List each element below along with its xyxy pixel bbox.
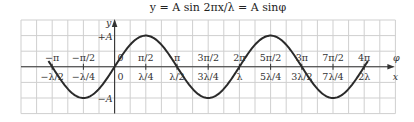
phase-tick-label: π/2 <box>138 52 154 63</box>
phase-tick-label: 2π <box>233 52 245 63</box>
x-axis-arrow-icon <box>387 64 394 70</box>
x-tick-label: λ/2 <box>169 71 184 82</box>
phase-tick-label: π <box>174 52 180 63</box>
x-tick-label: 3λ/4 <box>198 71 219 82</box>
x-tick-label: −λ/2 <box>41 71 64 82</box>
sine-wave-diagram: y = A sin 2πx/λ = A sinφ −π−π/20π/2π3π/2… <box>0 0 414 122</box>
phase-tick-label: 5π/2 <box>260 52 282 63</box>
x-tick-label: 3λ/2 <box>291 71 312 82</box>
y-tick-label-plus-a: +A <box>98 31 113 42</box>
phase-tick-label: 3π/2 <box>197 52 219 63</box>
phase-axis-label: φ <box>393 52 400 63</box>
phase-tick-label: −π <box>45 52 59 63</box>
diagram-title: y = A sin 2πx/λ = A sinφ <box>149 1 287 14</box>
x-tick-label: λ <box>236 71 242 82</box>
phase-tick-label: 3π <box>296 52 308 63</box>
phase-tick-label: −π/2 <box>72 52 95 63</box>
phase-tick-label: 0 <box>118 52 124 63</box>
x-axis-label: x <box>393 71 399 82</box>
y-tick-label-minus-a: −A <box>98 93 113 104</box>
x-tick-label: 0 <box>118 71 124 82</box>
x-tick-label: λ/4 <box>138 71 153 82</box>
x-tick-label: 5λ/4 <box>260 71 281 82</box>
x-tick-label: 7λ/4 <box>322 71 343 82</box>
x-tick-label: 2λ <box>358 71 370 82</box>
y-axis-label: y <box>105 17 112 28</box>
phase-tick-label: 7π/2 <box>322 52 344 63</box>
phase-tick-label: 4π <box>358 52 370 63</box>
x-tick-label: −λ/4 <box>72 71 95 82</box>
